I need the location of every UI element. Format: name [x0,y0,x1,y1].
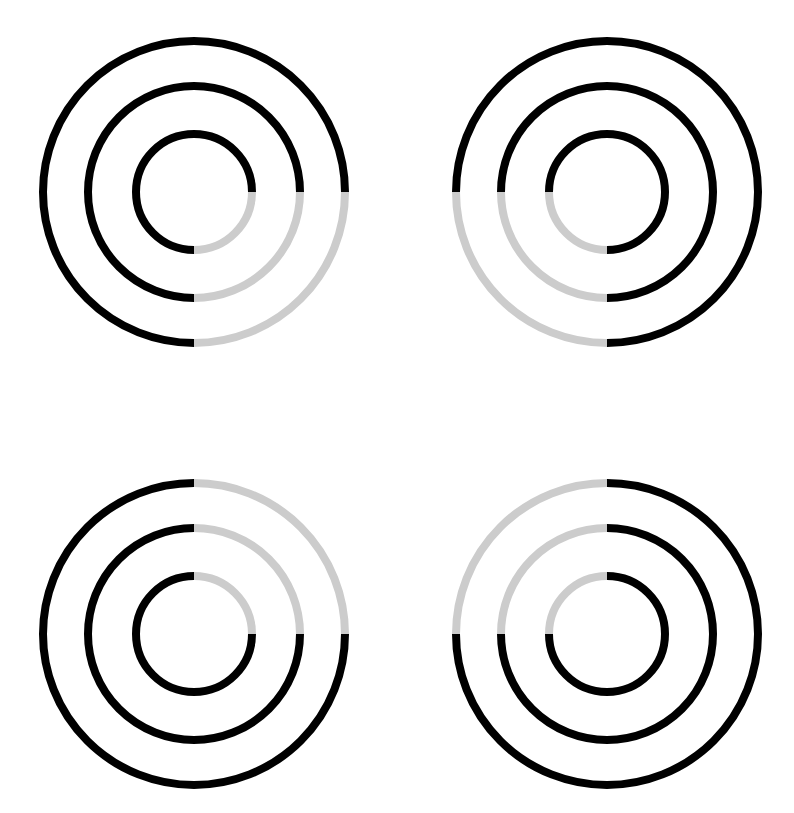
figure-top-right-inner-ring-light-arc [549,192,607,250]
figure-bottom-right [456,483,758,785]
stimulus-canvas [0,0,794,813]
figure-top-left-inner-ring-light-arc [194,192,252,250]
figure-top-left [43,41,345,343]
figure-bottom-right-inner-ring-light-arc [549,576,607,634]
figure-bottom-left [43,483,345,785]
concentric-rings-figure-group [0,0,794,813]
figure-top-right [456,41,758,343]
figure-bottom-left-inner-ring-light-arc [194,576,252,634]
